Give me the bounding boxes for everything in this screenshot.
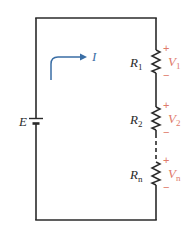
voltage-vn-label: Vn xyxy=(168,166,181,183)
resistor-rn-icon xyxy=(152,162,160,185)
resistor-r1-label: R1 xyxy=(129,55,142,72)
r2-plus-sign: + xyxy=(163,99,169,111)
series-circuit-diagram: E I R1 + V1 − R2 + V2 − Rn + Vn − xyxy=(0,0,194,233)
voltage-v2-label: V2 xyxy=(168,111,180,128)
rn-plus-sign: + xyxy=(163,154,169,166)
r1-minus-sign: − xyxy=(163,69,169,81)
resistor-r2-icon xyxy=(152,107,160,130)
resistor-r2-label: R2 xyxy=(129,112,142,129)
source-label: E xyxy=(18,114,27,129)
rn-minus-sign: − xyxy=(163,181,169,193)
voltage-v1-label: V1 xyxy=(168,54,180,71)
current-arrow-icon xyxy=(51,54,87,81)
battery-icon xyxy=(29,119,43,124)
r1-plus-sign: + xyxy=(163,42,169,54)
resistor-r1-icon xyxy=(152,50,160,73)
r2-minus-sign: − xyxy=(163,126,169,138)
current-label: I xyxy=(91,49,97,64)
resistor-rn-label: Rn xyxy=(129,167,143,184)
